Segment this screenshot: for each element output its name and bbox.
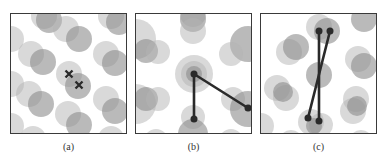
light-circle [219, 42, 243, 66]
panel-a-plot [11, 14, 127, 134]
light-circle [144, 129, 168, 134]
panel-b [135, 13, 252, 134]
caption-a: (a) [10, 141, 127, 152]
dot-marker-icon [305, 115, 312, 122]
dark-circle [273, 82, 293, 102]
panel-c [260, 13, 377, 134]
dark-circle [102, 98, 127, 124]
panel-b-plot [136, 14, 252, 134]
dot-marker-icon [191, 116, 198, 123]
dot-marker-icon [316, 28, 323, 35]
dark-circle [347, 96, 367, 116]
dot-marker-icon [327, 28, 334, 35]
dark-circle [66, 26, 92, 52]
dark-circle [351, 53, 377, 79]
light-circle [98, 126, 124, 134]
dark-circle [283, 34, 309, 60]
caption-c: (c) [260, 141, 377, 152]
light-circle [180, 18, 206, 44]
light-circle [219, 129, 243, 134]
dot-marker-icon [316, 118, 323, 125]
dark-circle [351, 14, 377, 32]
caption-b: (b) [135, 141, 252, 152]
panel-a [10, 13, 127, 134]
light-circle [279, 130, 303, 134]
dark-circle [102, 50, 127, 76]
light-circle [261, 113, 274, 134]
dark-circle [30, 49, 56, 75]
dot-marker-icon [245, 105, 252, 112]
light-circle [146, 40, 170, 64]
panel-c-plot [261, 14, 377, 134]
light-circle [146, 87, 170, 111]
dot-marker-icon [191, 71, 198, 78]
dark-circle [28, 91, 54, 117]
light-circle [11, 113, 24, 134]
dark-circle [106, 14, 127, 35]
light-circle [349, 130, 373, 134]
